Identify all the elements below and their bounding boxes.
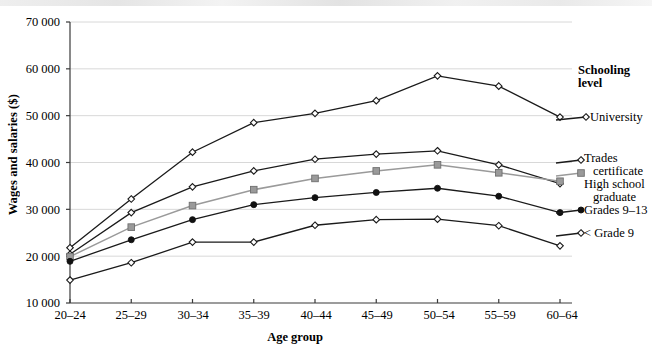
series-1 [67,147,564,257]
wages-by-age-line-chart: Wages and salaries ($) 70 000 60 000 50 … [0,0,652,358]
data-series-layer [67,73,564,284]
legend-item-less-grade-9[interactable]: < Grade 9 [584,227,652,241]
plot-area [0,0,652,358]
gridlines [70,22,572,256]
legend-item-university[interactable]: University [590,111,652,125]
series-2 [67,162,564,260]
series-4 [67,216,564,283]
legend-title-line2: level [578,77,652,91]
legend-item-grades-9-13[interactable]: Grades 9–13 [584,204,652,218]
